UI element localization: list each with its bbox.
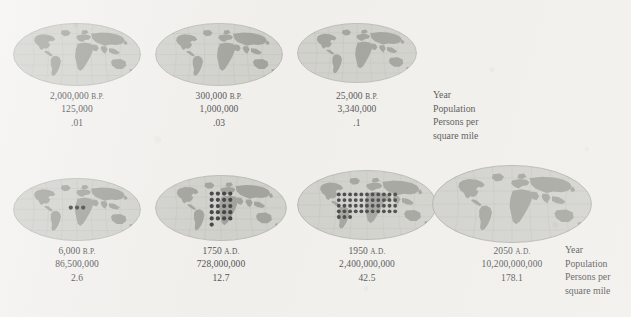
population-dot xyxy=(393,193,397,197)
population-dot xyxy=(75,206,79,210)
caption-year-value: 6,000 xyxy=(58,246,80,256)
population-dot xyxy=(393,209,397,213)
population-panel xyxy=(13,178,141,241)
population-dot xyxy=(343,204,347,208)
population-dot xyxy=(228,192,232,196)
population-dot xyxy=(216,204,220,208)
population-dot xyxy=(337,215,341,219)
panel-caption: 25,000 B.P.3,340,000.1 xyxy=(277,90,437,130)
population-dot xyxy=(228,210,232,214)
population-dot xyxy=(376,209,380,213)
caption-year-era: B.P. xyxy=(83,247,96,256)
population-dot-grid xyxy=(13,178,141,241)
population-dot xyxy=(376,193,380,197)
legend-density-label-line2: square mile xyxy=(433,129,478,143)
panel-caption: 300,000 B.P.1,000,000.03 xyxy=(139,90,299,130)
population-dot xyxy=(222,204,226,208)
caption-year-value: 2,000,000 xyxy=(50,91,89,101)
population-dot xyxy=(343,215,347,219)
population-dot xyxy=(216,216,220,220)
population-dot xyxy=(348,215,352,219)
legend-bottom: YearPopulationPersons persquare mile xyxy=(565,243,610,297)
population-dot xyxy=(348,204,352,208)
population-dot xyxy=(382,209,386,213)
world-globe xyxy=(155,23,283,86)
population-dot xyxy=(216,192,220,196)
population-dot xyxy=(69,206,73,210)
caption-year-era: A.D. xyxy=(224,247,239,256)
caption-density: .1 xyxy=(277,117,437,130)
world-globe xyxy=(297,23,417,83)
caption-year-value: 2050 xyxy=(493,246,512,256)
population-dot xyxy=(388,193,392,197)
caption-population: 125,000 xyxy=(0,103,157,116)
population-dot xyxy=(222,216,226,220)
globe-wrapper xyxy=(13,23,141,86)
caption-density: 2.6 xyxy=(0,272,157,285)
population-dot xyxy=(228,204,232,208)
population-dot xyxy=(210,210,214,214)
population-dot xyxy=(210,223,214,227)
legend-population-label: Population xyxy=(565,257,610,271)
population-dot xyxy=(371,209,375,213)
population-dot xyxy=(354,209,358,213)
population-dot xyxy=(337,193,341,197)
caption-year-value: 1950 xyxy=(348,246,367,256)
legend-density-label-line1: Persons per xyxy=(433,115,478,129)
globe-wrapper xyxy=(297,23,417,83)
population-dot xyxy=(365,204,369,208)
population-dot xyxy=(337,204,341,208)
population-dot xyxy=(210,204,214,208)
globe-wrapper xyxy=(155,23,283,86)
population-dot xyxy=(210,192,214,196)
population-dot xyxy=(388,198,392,202)
population-dot xyxy=(388,204,392,208)
population-dot xyxy=(371,198,375,202)
caption-year-era: B.P. xyxy=(91,92,104,101)
caption-year: 300,000 B.P. xyxy=(139,90,299,103)
caption-year-era: B.P. xyxy=(365,92,378,101)
caption-year: 1950 A.D. xyxy=(287,245,447,258)
population-dot xyxy=(354,198,358,202)
caption-year-value: 1750 xyxy=(202,246,221,256)
panel-caption: 1750 A.D.728,000,00012.7 xyxy=(141,245,301,285)
legend-year-label: Year xyxy=(565,243,610,257)
population-dot xyxy=(348,193,352,197)
world-globe xyxy=(13,23,141,86)
population-dot xyxy=(348,198,352,202)
caption-year: 2,000,000 B.P. xyxy=(0,90,157,103)
legend-year-label: Year xyxy=(433,88,478,102)
legend-density-label-line2: square mile xyxy=(565,284,610,298)
population-dot xyxy=(359,198,363,202)
caption-year-era: B.P. xyxy=(230,92,243,101)
caption-population: 2,400,000,000 xyxy=(287,258,447,271)
population-panel xyxy=(13,23,141,86)
population-dot xyxy=(371,193,375,197)
population-dot xyxy=(228,216,232,220)
population-dot xyxy=(359,193,363,197)
population-dot xyxy=(337,198,341,202)
caption-density: 12.7 xyxy=(141,272,301,285)
population-dot xyxy=(216,198,220,202)
caption-year: 25,000 B.P. xyxy=(277,90,437,103)
panel-caption: 2,000,000 B.P.125,000.01 xyxy=(0,90,157,130)
population-panel xyxy=(297,23,417,83)
panel-caption: 6,000 B.P.86,500,0002.6 xyxy=(0,245,157,285)
population-dot xyxy=(365,193,369,197)
population-panel xyxy=(432,165,592,243)
population-dot xyxy=(382,198,386,202)
population-dot xyxy=(343,198,347,202)
population-dot xyxy=(393,198,397,202)
population-dot xyxy=(343,209,347,213)
caption-year: 6,000 B.P. xyxy=(0,245,157,258)
caption-density: .01 xyxy=(0,117,157,130)
caption-year-value: 25,000 xyxy=(336,91,363,101)
population-dot xyxy=(382,204,386,208)
population-dot xyxy=(216,210,220,214)
population-dot xyxy=(359,204,363,208)
caption-year-value: 300,000 xyxy=(196,91,228,101)
population-dot xyxy=(376,198,380,202)
population-dot xyxy=(365,209,369,213)
population-dot xyxy=(348,209,352,213)
population-dot xyxy=(222,192,226,196)
